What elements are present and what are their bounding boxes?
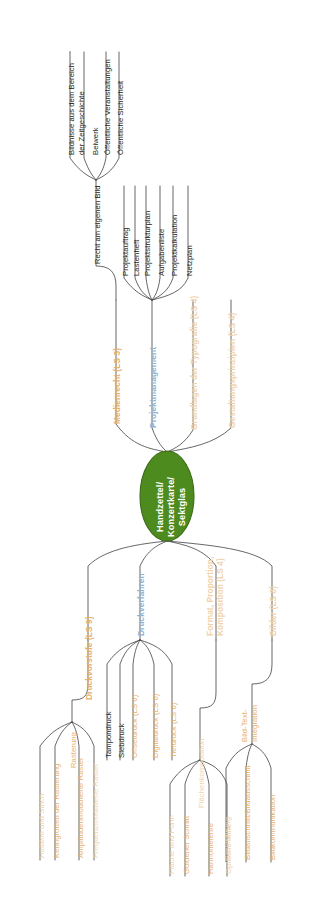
leaf-harmonielehre[interactable]: Harmonielehre	[207, 823, 216, 874]
node-bild-text-integration-line2[interactable]: Integration	[251, 705, 260, 742]
node-recht-am-eigenen-bild[interactable]: Recht am eigenen Bild	[94, 185, 103, 264]
leaf-tiefdruck[interactable]: Tiefdruck (LS 6)	[170, 703, 179, 758]
node-flaechenkomposition[interactable]: Flächenkomposition	[198, 739, 207, 808]
leaf-amplitudenmodulierte-raster[interactable]: Amplitudenmodulierte Raster	[77, 757, 86, 858]
leaf-halbton-und-strich[interactable]: Halbton und Strich	[38, 794, 47, 858]
branch-label-druckvorstufe[interactable]: Druckvorstufe (LS 9)	[85, 616, 95, 700]
leaf-bildkommunikation[interactable]: Bildkommunikation	[269, 795, 278, 860]
branch-label-projektmanagement[interactable]: Projektmanagement	[149, 347, 159, 428]
leaf-tampondruck[interactable]: Tampondruck	[105, 711, 114, 758]
mind-map-connectors	[0, 0, 334, 907]
leaf-lastenheft[interactable]: Lastenheft	[133, 240, 142, 276]
leaf-bildanschnitt-bildausschnitt[interactable]: Bildanschnitt/Bildausschnitt	[244, 765, 253, 860]
leaf-frequenzmodulierte-raster[interactable]: Frequenzmodulierte Raster	[92, 763, 101, 858]
mind-map-canvas: Handzettel/ Konzertkarte/ Sektglas Medie…	[0, 0, 334, 907]
leaf-siebdruck[interactable]: Siebdruck	[118, 723, 127, 758]
leaf-blickfuehrung[interactable]: Blickführung	[224, 817, 233, 860]
leaf-bildnisse-zeitgeschichte-line1[interactable]: Bildnisse aus dem Bereich	[68, 63, 77, 155]
leaf-netzplan[interactable]: Netzplan	[186, 245, 195, 276]
leaf-aufgabenliste[interactable]: Aufgabenliste	[158, 229, 167, 276]
leaf-flaeche-und-form[interactable]: Fläche und Form	[168, 815, 177, 874]
leaf-projektstrukturplan[interactable]: Projektstrukturplan	[144, 211, 153, 276]
branch-label-bilder[interactable]: Bilder (LS 8)	[269, 586, 279, 636]
leaf-oeffentliche-veranstaltungen[interactable]: Öffentliche Veranstaltungen	[104, 59, 113, 155]
leaf-bildnisse-zeitgeschichte-line2[interactable]: der Zeitgeschichte	[78, 91, 87, 155]
branch-label-druckverfahren[interactable]: Druckverfahren	[137, 573, 147, 636]
leaf-oeffentliche-sicherheit[interactable]: Öffentliche Sicherheit	[117, 81, 126, 155]
leaf-projektkalkulation[interactable]: Projektkalkulation	[171, 215, 180, 276]
leaf-kenngroessen-der-rasterung[interactable]: Kenngrößen der Rasterung	[53, 764, 62, 858]
branch-label-gestaltungsprinzipien[interactable]: Gestaltungsprinzipien (LS 4)	[228, 313, 238, 428]
leaf-goldener-schnitt[interactable]: Goldener Schnitt	[183, 816, 192, 874]
node-bild-text-integration-line1[interactable]: Bild-Text-	[241, 709, 250, 742]
leaf-projektauftrag[interactable]: Projektauftrag	[122, 227, 131, 276]
branch-label-medienrecht[interactable]: Medienrecht (LS 3)	[113, 348, 123, 424]
branch-label-typografie[interactable]: Grundlagen der Typografie (LS 4)	[190, 296, 200, 430]
root-node-label[interactable]: Handzettel/ Konzertkarte/ Sektglas	[155, 477, 188, 537]
leaf-beiwerk[interactable]: Beiwerk	[92, 127, 101, 155]
leaf-offsetdruck[interactable]: Offsetdruck (LS 6)	[131, 695, 140, 758]
leaf-digitaldruck[interactable]: Digitaldruck (LS 6)	[152, 694, 161, 758]
branch-label-format-proportion-line2[interactable]: Komposition (LS 4)	[216, 558, 226, 636]
